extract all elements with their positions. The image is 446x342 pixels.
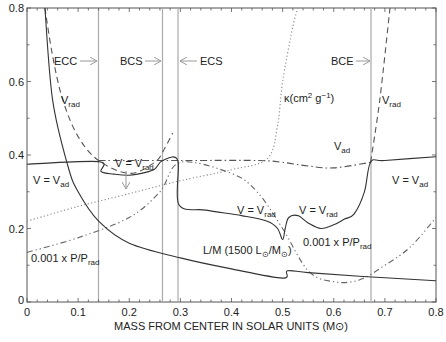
label-ecc: ECC	[54, 55, 77, 67]
curve-v-rad-outer	[371, 8, 390, 162]
label-vad: Vad	[334, 140, 350, 155]
y-tick-label: 0.6	[9, 76, 24, 88]
x-tick-label: 0.5	[275, 306, 290, 318]
x-tick-labels: 00.10.20.30.40.50.60.70.8	[24, 306, 444, 318]
label-v-eq-vad-left: V = Vad	[33, 174, 69, 189]
label-v-eq-vrad-mid1: V = Vrad	[237, 204, 276, 219]
y-tick-labels: 00.20.40.60.8	[9, 2, 24, 306]
x-tick-label: 0.1	[70, 306, 85, 318]
label-vrad-left: Vrad	[61, 94, 80, 109]
x-axis-title: MASS FROM CENTER IN SOLAR UNITS (M⊙)	[114, 320, 348, 332]
x-tick-label: 0.2	[122, 306, 137, 318]
label-kappa: κ(cm2 g−1)	[284, 91, 334, 104]
label-pprad-left: 0.001 x P/Prad	[31, 252, 99, 267]
x-tick-label: 0.7	[377, 306, 392, 318]
label-v-eq-vrad-bcs: V = Vrad	[115, 157, 154, 172]
zone-arrows	[80, 61, 370, 189]
x-tick-label: 0.8	[428, 306, 443, 318]
label-bce: BCE	[331, 55, 354, 67]
y-tick-label: 0	[18, 294, 24, 306]
label-v-eq-vad-right: V = Vad	[392, 174, 428, 189]
label-luminosity-mass: L/M (1500 L⊙/M⊙)	[203, 244, 292, 259]
y-tick-label: 0.8	[9, 2, 24, 14]
zone-boundaries	[99, 8, 372, 302]
curve-luminosity-per-mass	[45, 8, 436, 281]
label-vrad-right: Vrad	[382, 94, 401, 109]
y-tick-label: 0.4	[9, 149, 24, 161]
label-ecs: ECS	[200, 55, 223, 67]
x-tick-label: 0.4	[224, 306, 239, 318]
x-tick-label: 0.3	[173, 306, 188, 318]
y-tick-label: 0.2	[9, 223, 24, 235]
x-tick-label: 0.6	[326, 306, 341, 318]
x-tick-label: 0	[24, 306, 30, 318]
label-v-eq-vrad-mid2: V = Vrad	[299, 204, 338, 219]
label-bcs: BCS	[120, 55, 143, 67]
label-pprad-right: 0.001 x P/Prad	[303, 236, 371, 251]
curve-v-rad	[45, 8, 173, 173]
stellar-structure-chart: ECC BCS ECS BCE Vrad Vrad V = Vrad V = V…	[0, 0, 446, 342]
